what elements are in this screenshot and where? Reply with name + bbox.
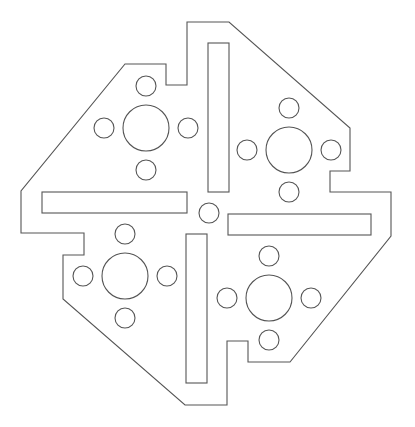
hole-small-top-left-2 (136, 160, 156, 180)
slot-top (208, 43, 229, 192)
plate-drawing (0, 0, 415, 427)
hole-small-bottom-right-1 (301, 288, 321, 308)
hole-large-bottom-right (246, 275, 292, 321)
hole-small-top-right-0 (279, 98, 299, 118)
hole-large-top-right (266, 127, 312, 173)
hole-small-bottom-left-1 (157, 266, 177, 286)
slot-right (228, 214, 371, 235)
hole-small-top-right-2 (279, 182, 299, 202)
hole-large-bottom-left (102, 253, 148, 299)
slots (42, 43, 371, 383)
hole-small-top-left-1 (178, 118, 198, 138)
center-hole (199, 203, 219, 223)
slot-left (42, 192, 187, 213)
hole-small-top-left-3 (94, 118, 114, 138)
hole-large-top-left (123, 105, 169, 151)
hole-small-top-left-0 (136, 76, 156, 96)
hole-small-bottom-right-3 (217, 288, 237, 308)
hole-small-bottom-right-2 (259, 330, 279, 350)
hole-small-bottom-left-2 (115, 308, 135, 328)
hole-small-top-right-3 (237, 140, 257, 160)
hole-small-top-right-1 (321, 140, 341, 160)
hole-small-bottom-left-3 (73, 266, 93, 286)
slot-bottom (186, 234, 207, 383)
hole-small-bottom-right-0 (259, 246, 279, 266)
hole-small-bottom-left-0 (115, 224, 135, 244)
